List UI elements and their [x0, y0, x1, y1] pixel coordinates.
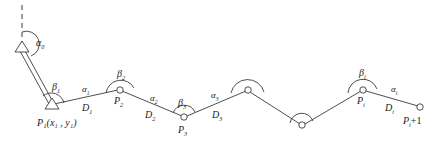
station-Pi-circle-icon	[360, 87, 366, 93]
label-D3: D3	[211, 109, 222, 122]
label-D1: D1	[81, 102, 92, 115]
label-Pi-plus-1: Pi+1	[402, 115, 421, 128]
label-alpha0: α0	[36, 37, 45, 50]
baseline-edge-left	[20, 51, 49, 104]
label-betai: βi	[358, 67, 366, 80]
station-P2-circle-icon	[117, 87, 123, 93]
label-beta1: β1	[51, 81, 60, 94]
label-alpha2: α2	[150, 93, 158, 105]
label-Pi: Pi	[356, 95, 365, 108]
label-beta2: β2	[116, 68, 125, 81]
label-P1: P₁(x₁ , y₁)	[36, 117, 77, 129]
segment-unlabeled-2	[305, 91, 361, 124]
label-alpha1: α1	[82, 84, 90, 96]
label-D2: D2	[144, 109, 155, 122]
label-alphai: αi	[391, 84, 398, 96]
traverse-diagram-svg: α0 β1 α1 D1 P₁(x₁ , y₁) β2 P2 α2 D2 β3 P…	[0, 0, 436, 149]
station-Pi-plus-1-circle-icon	[417, 104, 423, 110]
label-Di: Di	[384, 102, 394, 115]
station-unlabeled-2-circle-icon	[299, 122, 305, 128]
label-P3: P3	[177, 124, 187, 137]
station-A-triangle-icon	[15, 41, 29, 52]
baseline-edge-right	[24, 49, 53, 102]
station-unlabeled-1-circle-icon	[245, 87, 251, 93]
traverse-diagram-canvas: α0 β1 α1 D1 P₁(x₁ , y₁) β2 P2 α2 D2 β3 P…	[0, 0, 436, 149]
label-P2: P2	[113, 95, 123, 108]
segment-unlabeled-1	[250, 92, 300, 124]
label-alpha3: α3	[211, 90, 219, 102]
label-beta3: β3	[177, 97, 186, 110]
station-P3-circle-icon	[181, 114, 187, 120]
